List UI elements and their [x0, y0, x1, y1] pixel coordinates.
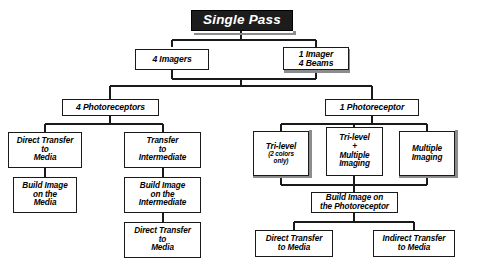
- node-direct-transfer-to-media-intermediate[interactable]: Direct Transfer to Media: [124, 222, 201, 258]
- diagram-canvas: Single Pass 4 Imagers 1 Imager 4 Beams 4…: [0, 0, 484, 268]
- multiple-imaging-shadow-side: [455, 130, 458, 177]
- node-build-image-on-the-intermediate[interactable]: Build Image on the Intermediate: [124, 177, 201, 213]
- build-image-photoreceptor-line2: the Photoreceptor: [320, 203, 389, 212]
- one-imager-line2: 4 Beams: [299, 59, 334, 68]
- direct-transfer2-line3: Media: [151, 244, 174, 253]
- node-build-image-on-the-photoreceptor[interactable]: Build Image on the Photoreceptor: [311, 192, 398, 213]
- direct-transfer-right-line2: to Media: [278, 244, 310, 253]
- four-imagers-label: 4 Imagers: [136, 55, 208, 64]
- node-one-photoreceptor[interactable]: 1 Photoreceptor: [325, 99, 419, 116]
- direct-transfer-line3: Media: [34, 154, 57, 163]
- node-root-single-pass[interactable]: Single Pass: [191, 10, 293, 31]
- one-photoreceptor-label: 1 Photoreceptor: [326, 103, 418, 112]
- node-transfer-to-intermediate[interactable]: Transfer to Intermediate: [124, 132, 201, 168]
- level1-right-shadow: [284, 70, 350, 73]
- node-tri-level-plus-multiple-imaging[interactable]: Tri-level + Multiple Imaging: [326, 127, 383, 176]
- four-photoreceptors-label: 4 Photoreceptors: [63, 103, 158, 112]
- node-indirect-transfer-to-media[interactable]: Indirect Transfer to Media: [373, 230, 455, 257]
- build-image-media-line3: Media: [34, 199, 57, 208]
- node-direct-transfer-to-media-left[interactable]: Direct Transfer to Media: [8, 132, 82, 168]
- tri-level-line3: only): [274, 158, 289, 165]
- root-label: Single Pass: [192, 13, 292, 27]
- node-one-imager-four-beams[interactable]: 1 Imager 4 Beams: [283, 47, 349, 70]
- build-image-intermediate-line3: Intermediate: [139, 199, 187, 208]
- node-tri-level[interactable]: Tri-level (2 colors only): [253, 131, 309, 176]
- node-multiple-imaging[interactable]: Multiple Imaging: [399, 131, 455, 176]
- node-build-image-on-the-media[interactable]: Build Image on the Media: [13, 177, 77, 213]
- node-four-photoreceptors[interactable]: 4 Photoreceptors: [62, 99, 159, 116]
- root-shadow: [194, 33, 296, 35]
- node-four-imagers[interactable]: 4 Imagers: [135, 49, 209, 70]
- tri-level-multi-line4: Imaging: [339, 160, 370, 169]
- tri-level-shadow-side: [309, 130, 312, 177]
- node-direct-transfer-to-media-right[interactable]: Direct Transfer to Media: [255, 230, 333, 257]
- transfer-intermediate-line3: Intermediate: [139, 154, 187, 163]
- indirect-transfer-line2: to Media: [398, 244, 430, 253]
- multiple-imaging-line2: Imaging: [412, 154, 443, 163]
- root-shadow-corner: [293, 31, 296, 33]
